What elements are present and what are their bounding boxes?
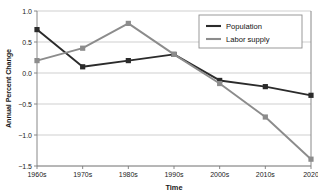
marker-population-2020 [308, 93, 313, 98]
marker-labor-supply-1960s [34, 58, 39, 63]
x-axis-title: Time [165, 183, 182, 192]
xtick-label-1960s: 1960s [27, 171, 47, 178]
xtick-label-1980s: 1980s [119, 171, 139, 178]
line-chart: 1.00.50.0−0.5−1.0−1.51960s1970s1980s1990… [0, 0, 318, 193]
xtick-label-1970s: 1970s [73, 171, 93, 178]
marker-labor-supply-1980s [126, 21, 131, 26]
chart-container: 1.00.50.0−0.5−1.0−1.51960s1970s1980s1990… [0, 0, 318, 193]
marker-labor-supply-2010s [263, 114, 268, 119]
ytick-label-1.0: 1.0 [22, 8, 32, 15]
y-axis-title: Annual Percent Change [4, 49, 13, 128]
marker-population-1960s [34, 27, 39, 32]
legend-label-population: Population [226, 22, 262, 31]
marker-population-1970s [80, 64, 85, 69]
marker-labor-supply-1970s [80, 46, 85, 51]
xtick-label-2000s: 2000s [210, 171, 230, 178]
legend-label-labor-supply: Labor supply [226, 35, 270, 44]
ytick-label-0.5: 0.5 [22, 39, 32, 46]
marker-population-2010s [263, 84, 268, 89]
xtick-label-1990s: 1990s [164, 171, 184, 178]
ytick-label--0.5: −0.5 [18, 101, 32, 108]
ytick-label--1.5: −1.5 [18, 163, 32, 170]
marker-population-1980s [126, 58, 131, 63]
ytick-label--1.0: −1.0 [18, 132, 32, 139]
ytick-label-0.0: 0.0 [22, 70, 32, 77]
xtick-label-2010s: 2010s [256, 171, 276, 178]
xtick-label-2020: 2020 [303, 171, 318, 178]
marker-labor-supply-2000s [217, 81, 222, 86]
marker-labor-supply-1990s [171, 52, 176, 57]
marker-labor-supply-2020 [308, 157, 313, 162]
